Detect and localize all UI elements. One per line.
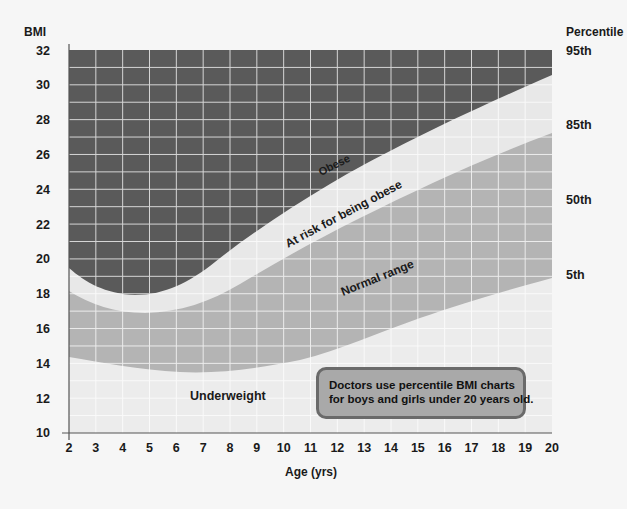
x-tick: 10: [277, 441, 291, 455]
x-tick: 17: [465, 441, 479, 455]
x-tick: 2: [66, 441, 73, 455]
percentile-85th: 85th: [566, 118, 592, 132]
x-tick: 18: [491, 441, 505, 455]
percentile-axis-title: Percentile: [566, 25, 624, 39]
x-tick: 3: [92, 441, 99, 455]
annotation-line-1: Doctors use percentile BMI charts: [329, 378, 523, 392]
y-tick: 20: [36, 252, 50, 266]
x-tick: 7: [200, 441, 207, 455]
y-tick: 26: [36, 148, 50, 162]
y-tick: 32: [36, 44, 50, 58]
y-tick: 16: [36, 322, 50, 336]
x-tick: 6: [173, 441, 180, 455]
y-tick-labels: 32 30 28 26 24 22 20 18 16 14 12 10: [36, 44, 50, 440]
x-tick: 12: [330, 441, 344, 455]
x-tick: 13: [357, 441, 371, 455]
x-tick: 11: [304, 441, 317, 455]
percentile-labels: 95th 85th 50th 5th: [566, 44, 592, 282]
x-tick: 8: [227, 441, 234, 455]
annotation-line-2: for boys and girls under 20 years old.: [329, 392, 523, 406]
y-axis-title: BMI: [24, 25, 46, 39]
y-tick: 10: [36, 426, 50, 440]
x-tick: 16: [438, 441, 452, 455]
y-tick: 22: [36, 218, 50, 232]
y-tick: 14: [36, 357, 50, 371]
y-tick: 12: [36, 392, 50, 406]
x-axis-title: Age (yrs): [285, 465, 337, 479]
percentile-95th: 95th: [566, 44, 592, 58]
x-tick: 9: [253, 441, 260, 455]
x-tick: 15: [411, 441, 425, 455]
x-tick: 4: [119, 441, 126, 455]
x-tick: 14: [384, 441, 398, 455]
bmi-percentile-chart: BMI Percentile 32 30 28 26 24 22 20 18 1…: [0, 0, 627, 509]
x-tick: 5: [146, 441, 153, 455]
y-tick: 24: [36, 183, 50, 197]
percentile-50th: 50th: [566, 193, 592, 207]
x-tick: 20: [545, 441, 559, 455]
x-tick-labels: 234567891011121314151617181920: [66, 441, 559, 455]
annotation-box: Doctors use percentile BMI charts for bo…: [316, 367, 526, 419]
x-tick: 19: [518, 441, 532, 455]
y-tick: 28: [36, 113, 50, 127]
percentile-5th: 5th: [566, 268, 585, 282]
y-tick: 18: [36, 287, 50, 301]
y-tick: 30: [36, 78, 50, 92]
label-underweight: Underweight: [190, 389, 267, 403]
